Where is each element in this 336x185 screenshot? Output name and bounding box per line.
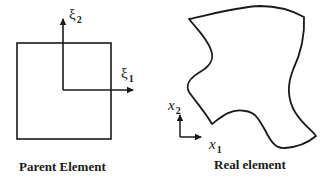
xi2-symbol: ξ <box>69 6 76 22</box>
x1-axis-label: x1 <box>209 135 222 153</box>
xi1-subscript: 1 <box>129 73 134 84</box>
x1-subscript: 1 <box>217 144 222 155</box>
real-element-shape <box>188 6 316 148</box>
real-element-caption: Real element <box>214 157 286 173</box>
xi1-axis-label: ξ1 <box>121 64 134 82</box>
parent-element-square <box>17 43 111 139</box>
xi1-symbol: ξ <box>121 65 128 81</box>
parent-element-caption: Parent Element <box>19 159 106 175</box>
x1-symbol: x <box>209 136 216 152</box>
x2-symbol: x <box>168 97 175 113</box>
xi2-subscript: 2 <box>77 14 82 25</box>
x2-subscript: 2 <box>176 105 181 116</box>
x2-axis-label: x2 <box>168 96 181 114</box>
xi2-axis-label: ξ2 <box>69 5 82 23</box>
